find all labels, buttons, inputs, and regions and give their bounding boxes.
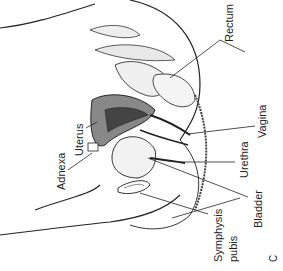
label-adnexa: Adnexa xyxy=(55,153,67,190)
label-uterus: Uterus xyxy=(73,124,85,156)
pelvic-anatomy-diagram: Rectum Vagina Urethra Bladder Symphysis … xyxy=(0,0,283,271)
label-vagina: Vagina xyxy=(256,105,268,138)
label-rectum: Rectum xyxy=(223,4,235,42)
label-bladder: Bladder xyxy=(252,190,264,228)
panel-letter: C xyxy=(268,255,280,262)
label-urethra: Urethra xyxy=(238,141,250,178)
label-symphysis: Symphysis xyxy=(212,209,224,262)
pelvic-illustration xyxy=(0,0,283,271)
label-pubis: pubis xyxy=(227,236,239,262)
